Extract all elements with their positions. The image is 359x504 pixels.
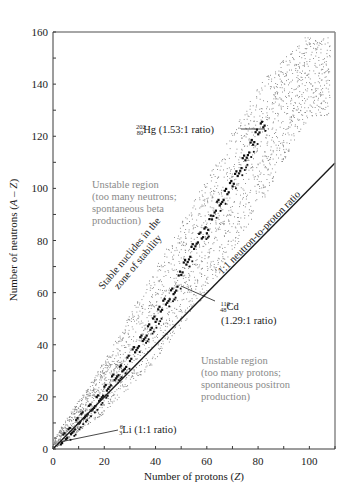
svg-text:80: 80 xyxy=(37,235,49,247)
svg-text:0: 0 xyxy=(43,443,49,455)
proton-rich-region-label: Unstable region(too many protons;spontan… xyxy=(201,355,291,403)
nuclide-stability-chart: 020406080100 020406080100120140160 Numbe… xyxy=(0,0,359,504)
svg-text:120: 120 xyxy=(32,130,49,142)
svg-text:0: 0 xyxy=(50,455,56,467)
hg-annotation: 20280Hg (1.53:1 ratio) xyxy=(136,123,265,136)
neutron-rich-region-label: Unstable region(too many neutrons;sponta… xyxy=(92,179,177,227)
svg-text:40: 40 xyxy=(37,339,49,351)
svg-text:160: 160 xyxy=(32,26,49,38)
svg-text:140: 140 xyxy=(32,78,49,90)
one-to-one-line-label: 1:1 neutron-to-proton ratio xyxy=(216,189,303,277)
x-axis-title: Number of protons (Z) xyxy=(144,470,244,483)
svg-text:60: 60 xyxy=(201,455,213,467)
svg-text:100: 100 xyxy=(301,455,318,467)
svg-text:40: 40 xyxy=(150,455,162,467)
svg-text:20: 20 xyxy=(99,455,111,467)
svg-text:11048Cd: 11048Cd xyxy=(220,300,240,313)
svg-text:100: 100 xyxy=(32,182,49,194)
cd-annotation: 11048Cd (1.29:1 ratio) xyxy=(181,286,277,327)
y-axis-title: Number of neutrons (A – Z) xyxy=(7,179,20,302)
svg-text:60: 60 xyxy=(37,287,49,299)
svg-text:(1.29:1 ratio): (1.29:1 ratio) xyxy=(221,315,277,327)
y-axis-ticks: 020406080100120140160 xyxy=(32,26,57,455)
svg-text:63Li (1:1 ratio): 63Li (1:1 ratio) xyxy=(119,423,177,436)
svg-text:20280Hg (1.53:1 ratio): 20280Hg (1.53:1 ratio) xyxy=(136,123,215,136)
svg-text:80: 80 xyxy=(253,455,265,467)
stable-zone-label: Stable nuclides in the zone of stability xyxy=(96,215,172,299)
svg-text:20: 20 xyxy=(37,391,49,403)
